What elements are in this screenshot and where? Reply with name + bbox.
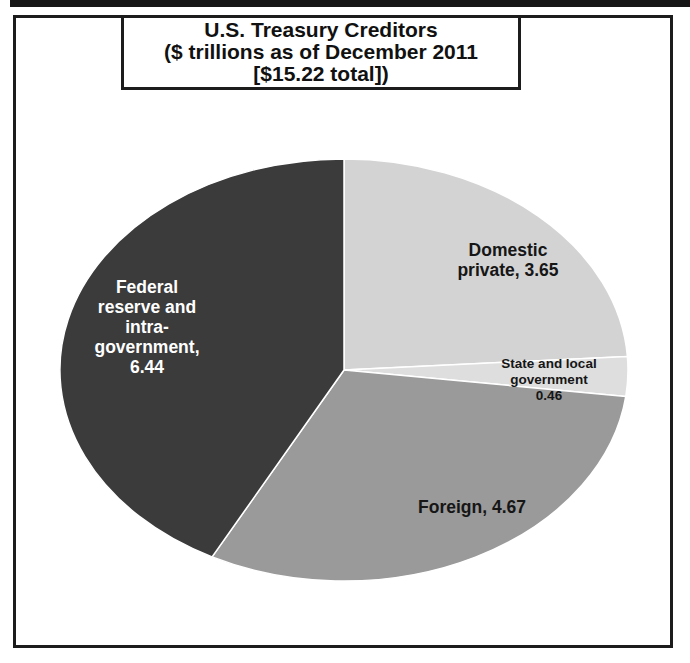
label-line: Foreign, 4.67 [418,497,526,517]
label-line: intra- [94,317,199,337]
chart-title-line-2: ($ trillions as of December 2011 [124,41,518,63]
pie-label-domestic-private: Domestic private, 3.65 [457,240,558,280]
chart-title-box: U.S. Treasury Creditors ($ trillions as … [121,15,521,90]
label-line: government [501,372,596,388]
label-line: Domestic [457,240,558,260]
label-line: reserve and [94,297,199,317]
label-line: State and local [501,356,596,372]
chart-title-line-3: [$15.22 total]) [124,63,518,85]
label-line: private, 3.65 [457,260,558,280]
label-line: 0.46 [501,388,596,404]
page: U.S. Treasury Creditors ($ trillions as … [0,0,690,663]
label-line: Federal [94,277,199,297]
pie-label-state-and-local-government: State and local government 0.46 [501,356,596,404]
pie-label-federal-reserve-and-intra-government: Federal reserve and intra- government, 6… [94,277,199,377]
chart-title-line-1: U.S. Treasury Creditors [124,19,518,41]
pie-label-foreign: Foreign, 4.67 [418,497,526,517]
label-line: government, [94,337,199,357]
label-line: 6.44 [94,357,199,377]
